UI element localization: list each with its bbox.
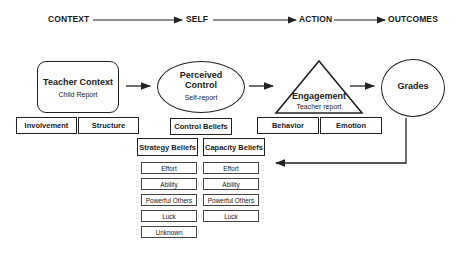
engagement-title: Engagement	[276, 91, 362, 101]
teacher-context-subtitle: Child Report	[38, 91, 118, 98]
stage-action: ACTION	[299, 14, 332, 24]
perceived-control-title-2: Control	[158, 80, 244, 90]
structure-box: Structure	[78, 117, 139, 134]
stage-self: SELF	[186, 14, 208, 24]
teacher-context-title: Teacher Context	[38, 77, 118, 87]
perceived-control-node: Perceived Control Self-report	[157, 61, 245, 113]
strategy-item-luck: Luck	[141, 210, 197, 222]
behavior-box: Behavior	[257, 117, 319, 134]
control-beliefs-box: Control Beliefs	[170, 118, 232, 135]
grades-node: Grades	[381, 59, 445, 117]
capacity-item-powerful-others: Powerful Others	[203, 194, 259, 206]
engagement-subtitle: Teacher report	[276, 103, 362, 110]
involvement-box: Involvement	[16, 117, 77, 134]
teacher-context-node: Teacher Context Child Report	[37, 61, 119, 113]
strategy-item-effort: Effort	[141, 162, 197, 174]
capacity-item-ability: Ability	[203, 178, 259, 190]
perceived-control-title-1: Perceived	[158, 70, 244, 80]
strategy-item-powerful-others: Powerful Others	[141, 194, 197, 206]
capacity-item-luck: Luck	[203, 210, 259, 222]
capacity-item-effort: Effort	[203, 162, 259, 174]
stage-outcomes: OUTCOMES	[388, 14, 438, 24]
strategy-beliefs-header: Strategy Beliefs	[137, 138, 198, 156]
perceived-control-subtitle: Self-report	[158, 94, 244, 101]
emotion-box: Emotion	[320, 117, 382, 134]
grades-title: Grades	[382, 81, 444, 91]
capacity-beliefs-header: Capacity Beliefs	[203, 138, 265, 156]
strategy-item-ability: Ability	[141, 178, 197, 190]
strategy-item-unknown: Unknown	[141, 226, 197, 238]
stage-context: CONTEXT	[48, 14, 89, 24]
